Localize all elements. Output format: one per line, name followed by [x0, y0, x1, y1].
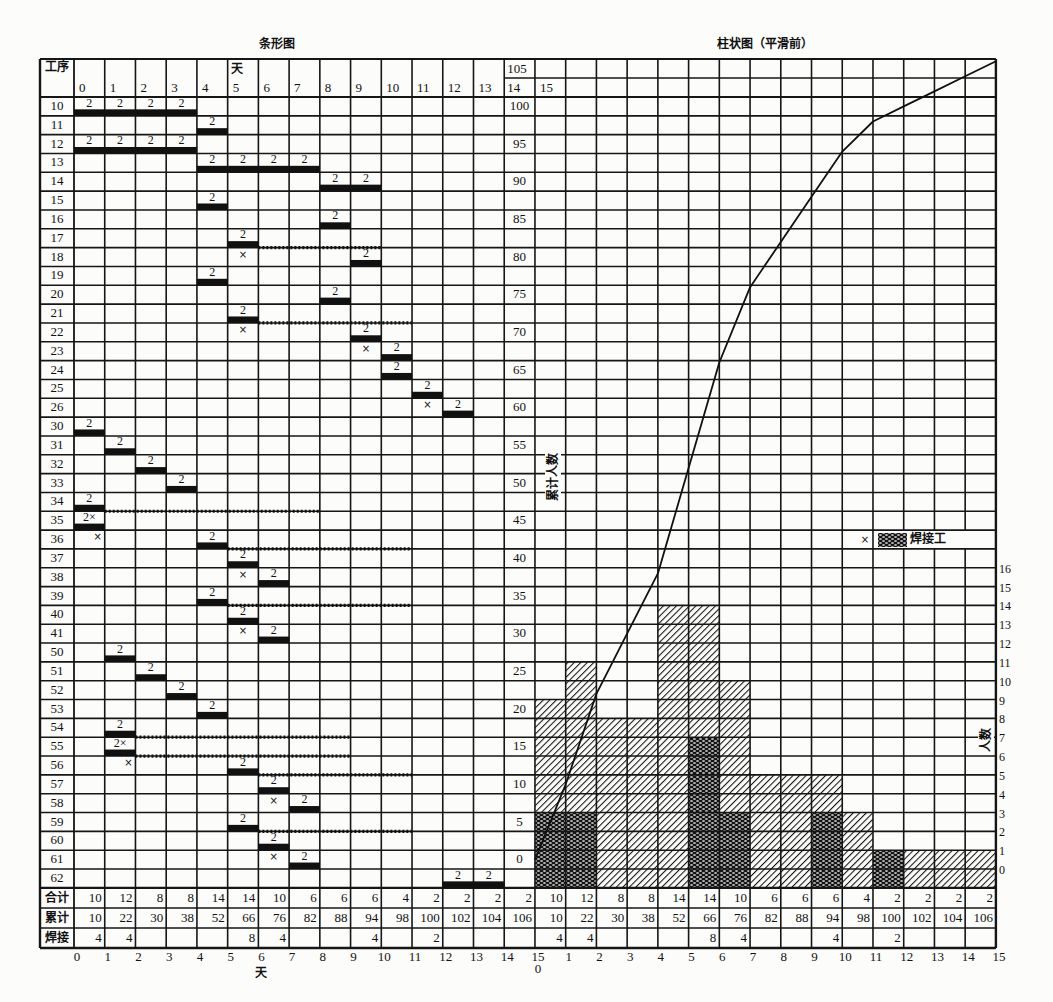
- right-axis-tick: 8: [999, 712, 1023, 726]
- welding-x-mark: ×: [228, 625, 259, 637]
- summary-value: 8: [689, 928, 717, 948]
- summary-value: 2: [443, 888, 471, 908]
- day-header: 10: [386, 78, 412, 97]
- task-worker-count: 2: [74, 134, 105, 147]
- task-worker-count: 2: [228, 812, 259, 825]
- summary-value: 2: [412, 928, 440, 948]
- task-worker-count: 2: [320, 209, 351, 222]
- task-worker-count: 2: [197, 191, 228, 204]
- process-id: 41: [40, 624, 74, 643]
- left-axis-tick: 65: [504, 361, 535, 380]
- right-axis-tick: 10: [999, 675, 1023, 689]
- summary-value: [842, 928, 870, 948]
- summary-value: 38: [627, 908, 655, 928]
- right-axis-tick: 0: [999, 863, 1023, 877]
- summary-value: [596, 928, 624, 948]
- process-id: 20: [40, 285, 74, 304]
- left-axis-tick: 40: [504, 549, 535, 568]
- left-axis-tick: 50: [504, 474, 535, 493]
- task-worker-count: 2: [74, 492, 105, 505]
- x-axis-tick: 8: [312, 950, 334, 964]
- summary-value: 2: [904, 888, 932, 908]
- summary-value: 82: [750, 908, 778, 928]
- summary-value: 4: [381, 888, 409, 908]
- x-axis-tick: 3: [619, 950, 641, 964]
- task-worker-count: 2: [258, 831, 289, 844]
- process-id: 39: [40, 587, 74, 606]
- left-axis-tick: 35: [504, 587, 535, 606]
- summary-label: 累计: [40, 908, 74, 928]
- summary-value: 10: [74, 888, 102, 908]
- task-worker-count: 2: [166, 473, 197, 486]
- x-axis-tick: 2: [127, 950, 149, 964]
- day-header: 12: [448, 78, 474, 97]
- process-id: 52: [40, 681, 74, 700]
- x-axis-tick: 7: [742, 950, 764, 964]
- process-id: 57: [40, 775, 74, 794]
- summary-value: 94: [351, 908, 379, 928]
- summary-value: 8: [228, 928, 256, 948]
- task-worker-count: 2: [166, 97, 197, 110]
- summary-value: 52: [197, 908, 225, 928]
- summary-value: 10: [719, 888, 747, 908]
- x-axis-tick: 2: [588, 950, 610, 964]
- right-axis-tick: 6: [999, 750, 1023, 764]
- summary-value: 52: [658, 908, 686, 928]
- summary-value: 4: [842, 888, 870, 908]
- x-axis-tick: 15: [988, 950, 1010, 964]
- legend-marker: ×: [857, 532, 873, 548]
- process-id: 10: [40, 97, 74, 116]
- summary-value: [381, 928, 409, 948]
- summary-value: 102: [443, 908, 471, 928]
- left-axis-tick: 80: [504, 248, 535, 267]
- process-id: 36: [40, 530, 74, 549]
- x-axis-tick: 13: [465, 950, 487, 964]
- summary-value: 98: [842, 908, 870, 928]
- task-worker-count: 2: [258, 774, 289, 787]
- x-axis-tick: 5: [681, 950, 703, 964]
- summary-value: 14: [658, 888, 686, 908]
- x-axis-tick: 3: [158, 950, 180, 964]
- task-worker-count: 2: [351, 322, 382, 335]
- summary-value: 6: [812, 888, 840, 908]
- summary-value: 8: [596, 888, 624, 908]
- x-axis-tick: 7: [281, 950, 303, 964]
- left-axis-tick: 75: [504, 285, 535, 304]
- task-worker-count: 2: [381, 341, 412, 354]
- process-id: 32: [40, 455, 74, 474]
- summary-value: 4: [105, 928, 133, 948]
- summary-value: 66: [228, 908, 256, 928]
- summary-label: 合计: [40, 888, 74, 908]
- x-axis-tick: 5: [220, 950, 242, 964]
- task-worker-count: 2: [105, 435, 136, 448]
- left-axis-tick: 70: [504, 323, 535, 342]
- text-layer: 22221021122221222221322142152162172×1821…: [0, 0, 1053, 1002]
- summary-value: 88: [320, 908, 348, 928]
- task-worker-count: 2: [289, 793, 320, 806]
- summary-value: 22: [105, 908, 133, 928]
- summary-value: [166, 928, 194, 948]
- process-id: 51: [40, 662, 74, 681]
- welding-x-mark: ×: [351, 343, 382, 355]
- right-axis-tick: 2: [999, 825, 1023, 839]
- process-id: 13: [40, 153, 74, 172]
- summary-value: 4: [719, 928, 747, 948]
- day-header: 13: [478, 78, 504, 97]
- left-axis-tick: 20: [504, 700, 535, 719]
- task-worker-count: 2: [412, 379, 443, 392]
- day-header: 14: [507, 78, 538, 97]
- summary-value: 6: [750, 888, 778, 908]
- process-id: 31: [40, 436, 74, 455]
- welding-x-mark: ×: [258, 795, 289, 807]
- summary-value: 88: [781, 908, 809, 928]
- left-axis-tick: 60: [504, 398, 535, 417]
- process-id: 55: [40, 737, 74, 756]
- process-id: 21: [40, 304, 74, 323]
- x-axis-tick: 12: [896, 950, 918, 964]
- left-axis-tick: 95: [504, 135, 535, 154]
- summary-value: 8: [627, 888, 655, 908]
- process-id: 59: [40, 813, 74, 832]
- summary-value: [504, 928, 532, 948]
- summary-value: 2: [965, 888, 993, 908]
- summary-value: 2: [473, 888, 501, 908]
